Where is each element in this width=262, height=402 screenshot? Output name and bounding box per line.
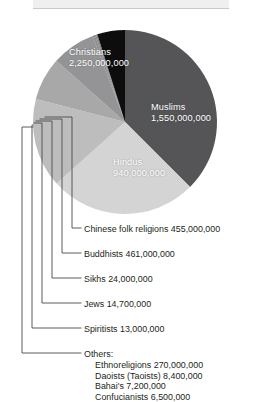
others-item-ethnoreligions: Ethnoreligions 270,000,000	[95, 360, 203, 371]
callout-others: Others:	[84, 349, 113, 360]
leader-line-jews	[34, 123, 81, 303]
leader-line-chinese-folk	[45, 117, 81, 228]
others-breakdown-list: Ethnoreligions 270,000,000 Daoists (Taoi…	[95, 360, 203, 402]
leader-line-buddhists	[40, 119, 81, 253]
callout-spiritists: Spiritists 13,000,000	[84, 324, 164, 335]
leader-lines-svg	[0, 0, 262, 402]
others-item-bahais: Bahai's 7,200,000	[95, 381, 203, 392]
callout-buddhists: Buddhists 461,000,000	[84, 249, 175, 260]
pie-chart-figure: Christians 2,250,000,000 Muslims 1,550,0…	[0, 0, 262, 402]
callout-jews: Jews 14,700,000	[84, 299, 151, 310]
leader-line-spiritists	[32, 125, 81, 328]
others-item-confucianists: Confucianists 6,500,000	[95, 392, 203, 402]
callout-sikhs: Sikhs 24,000,000	[84, 274, 153, 285]
others-item-daoists: Daoists (Taoists) 8,400,000	[95, 371, 203, 382]
callout-chinese-folk-religions: Chinese folk religions 455,000,000	[84, 224, 220, 235]
leader-line-sikhs	[36, 121, 81, 278]
